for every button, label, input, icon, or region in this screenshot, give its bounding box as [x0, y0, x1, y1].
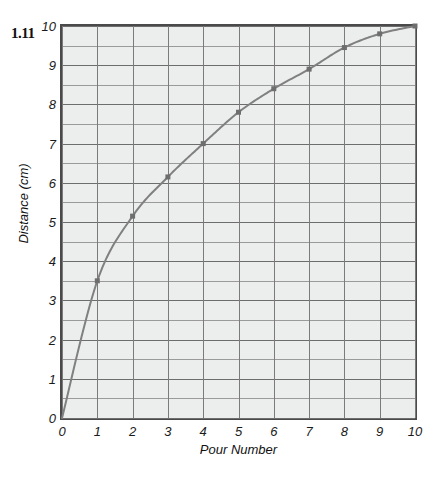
gridline-horizontal: [62, 418, 415, 419]
x-tick-label: 4: [188, 424, 218, 439]
x-tick-label: 0: [47, 424, 77, 439]
plot-area: [60, 24, 417, 420]
data-point-marker: [236, 110, 241, 115]
x-tick-label: 3: [153, 424, 183, 439]
y-tick-label: 3: [30, 293, 56, 308]
gridline-vertical: [415, 26, 416, 418]
data-point-marker: [377, 31, 382, 36]
data-point-marker: [413, 24, 418, 29]
x-tick-label: 2: [118, 424, 148, 439]
y-tick-label: 8: [30, 97, 56, 112]
x-tick-label: 9: [365, 424, 395, 439]
y-axis-title: Distance (cm): [16, 134, 31, 274]
y-axis-ticks: 012345678910: [26, 24, 56, 420]
y-tick-label: 6: [30, 175, 56, 190]
data-line: [62, 26, 415, 418]
data-point-marker: [271, 86, 276, 91]
x-tick-label: 10: [400, 424, 430, 439]
y-tick-label: 7: [30, 136, 56, 151]
y-tick-label: 4: [30, 254, 56, 269]
data-point-marker: [307, 67, 312, 72]
y-tick-label: 9: [30, 58, 56, 73]
x-tick-label: 1: [82, 424, 112, 439]
y-tick-label: 1: [30, 371, 56, 386]
chart-figure: 1.11 012345678910 012345678910 Distance …: [0, 0, 443, 477]
data-point-marker: [165, 174, 170, 179]
x-tick-label: 7: [294, 424, 324, 439]
x-tick-label: 8: [329, 424, 359, 439]
x-axis-ticks: 012345678910: [60, 424, 417, 444]
y-tick-label: 10: [30, 19, 56, 34]
data-markers: [95, 24, 418, 284]
x-axis-title: Pour Number: [60, 442, 417, 457]
data-point-marker: [201, 141, 206, 146]
data-curve-layer: [62, 26, 415, 418]
y-tick-label: 2: [30, 332, 56, 347]
data-point-marker: [95, 278, 100, 283]
y-tick-label: 5: [30, 215, 56, 230]
data-point-marker: [130, 214, 135, 219]
x-tick-label: 6: [259, 424, 289, 439]
data-point-marker: [342, 45, 347, 50]
x-tick-label: 5: [224, 424, 254, 439]
